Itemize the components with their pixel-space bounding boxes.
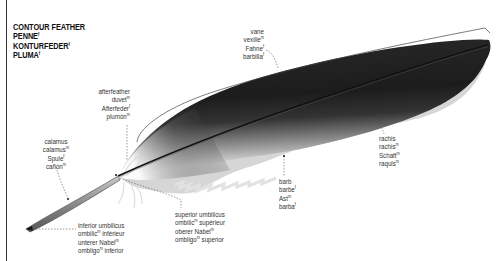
label-rachis: rachis rachism Schaftm raquism (379, 135, 400, 168)
label-barb: barb barbef Astm barbaf (279, 178, 296, 211)
label-superior-umbilicus: superior umbilicus ombilicm supérieur ob… (175, 211, 225, 244)
label-calamus: calamus calamusm Spulef cañónm (41, 138, 72, 171)
label-afterfeather: afterfeather duvetm Afterfederf plumónm (94, 88, 130, 121)
label-inferior-umbilicus: inferior umbilicus ombilicm inférieur un… (78, 222, 125, 255)
label-vane: vane vexillem Fahnef barbillaf (233, 28, 264, 61)
leader-vane (266, 50, 278, 68)
feather-title: CONTOUR FEATHER PENNEf KONTURFEDERf PLUM… (13, 23, 85, 61)
title-es: PLUMAf (13, 51, 85, 60)
leader-calamus (56, 167, 68, 198)
